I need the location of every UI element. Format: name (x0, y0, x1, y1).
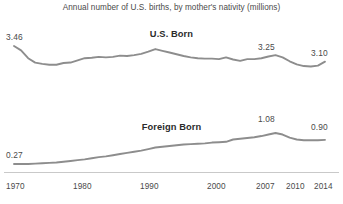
value-label-foreign-1970: 0.27 (6, 150, 23, 160)
series-line-us-born (14, 46, 325, 67)
x-tick-2000: 2000 (207, 182, 226, 191)
x-tick-1980: 1980 (73, 182, 92, 191)
value-label-foreign-2007: 1.08 (258, 114, 275, 124)
value-label-us-1970: 3.46 (6, 32, 23, 42)
x-tick-1990: 1990 (140, 182, 159, 191)
x-tick-2007: 2007 (256, 182, 275, 191)
value-label-us-2007: 3.25 (258, 42, 275, 52)
x-tick-2014: 2014 (314, 182, 333, 191)
series-label-us-born: U.S. Born (0, 29, 343, 39)
x-tick-2010: 2010 (286, 182, 305, 191)
series-label-foreign-born: Foreign Born (0, 122, 343, 132)
value-label-foreign-2014: 0.90 (311, 122, 328, 132)
chart-container: Annual number of U.S. births, by mother'… (0, 0, 343, 204)
value-label-us-2014: 3.10 (311, 48, 328, 58)
x-tick-1970: 1970 (6, 182, 25, 191)
series-line-foreign-born (14, 133, 325, 164)
